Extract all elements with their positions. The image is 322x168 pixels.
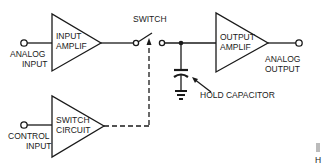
control-input-terminal [21, 122, 27, 128]
switch-label: SWITCH [133, 14, 167, 24]
input-amp-label-2: AMPLIF [56, 41, 87, 51]
analog-output-terminal [296, 40, 302, 46]
corner-fragment-text: H [315, 155, 321, 165]
switch-circuit-label-2: CIRCUIT [56, 125, 90, 135]
input-amp-label-1: INPUT [56, 31, 82, 41]
analog-input-label-1: ANALOG [10, 49, 45, 59]
switch-circuit-label-1: SWITCH [56, 115, 90, 125]
output-amp-label-1: OUTPUT [220, 32, 255, 42]
control-input-label-1: CONTROL [8, 131, 50, 141]
analog-input-terminal [21, 40, 27, 46]
actuator-arrow-icon [147, 38, 152, 45]
analog-output-label-1: ANALOG [265, 54, 300, 64]
switch-contact-right [159, 40, 164, 45]
switch-contact-left [133, 40, 138, 45]
analog-input-label-2: INPUT [22, 59, 48, 69]
control-input-label-2: INPUT [26, 141, 52, 151]
output-amp-label-2: AMPLIF [220, 42, 251, 52]
sample-hold-diagram: ANALOG INPUT INPUT AMPLIF SWITCH HOLD CA… [0, 0, 322, 168]
hold-capacitor-label: HOLD CAPACITOR [200, 90, 275, 100]
analog-output-label-2: OUTPUT [265, 64, 300, 74]
corner-gray-mark [316, 143, 320, 152]
